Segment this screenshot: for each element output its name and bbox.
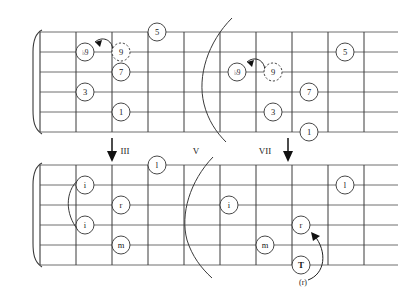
- dot-5-right-upper: 5: [336, 43, 354, 61]
- dot-m-left-lower: m: [112, 236, 130, 254]
- fretboard-figure: ♭9 9 5 7 3 1: [0, 0, 400, 303]
- dot-label: 1: [119, 107, 123, 117]
- dot-label: r: [300, 220, 303, 230]
- dot-label: r: [120, 200, 123, 210]
- dot-flat9-right-upper: ♭9: [228, 63, 246, 81]
- dot-thumb-right-lower: T: [292, 256, 310, 274]
- dot-label: T: [298, 260, 304, 270]
- reach-arc-lower: [185, 157, 213, 278]
- fret-marker-label: VII: [259, 146, 272, 156]
- dot-label: 3: [83, 87, 87, 97]
- dot-7-left-upper: 7: [112, 63, 130, 81]
- upper-board: ♭9 9 5 7 3 1: [33, 18, 398, 142]
- dot-i-upper-left-lower: i: [76, 176, 94, 194]
- dot-label: 5: [343, 47, 347, 57]
- dot-m-right-lower: m: [256, 236, 274, 254]
- dot-label: 9: [119, 47, 123, 57]
- dot-l-right-lower: l: [336, 176, 354, 194]
- slur-left-upper: [95, 39, 113, 50]
- nut-brace-upper: [33, 30, 42, 134]
- fret-marker-label: V: [193, 146, 200, 156]
- dot-1-right-upper: 1: [300, 123, 318, 141]
- dot-label: 3: [271, 107, 275, 117]
- dot-1-left-upper: 1: [112, 103, 130, 121]
- fret-marker-VII: VII: [259, 146, 272, 156]
- thumb-to-r-arrow: [308, 232, 323, 280]
- fret-marker-III: III: [107, 138, 130, 162]
- dot-9-right-upper: 9: [264, 63, 282, 81]
- dot-label: 1: [307, 127, 311, 137]
- dot-i-right-lower: i: [220, 196, 238, 214]
- dot-label: 7: [119, 67, 123, 77]
- dot-label: ♭9: [82, 48, 89, 57]
- nut-brace-lower: [33, 163, 42, 267]
- figure-canvas: ♭9 9 5 7 3 1: [0, 0, 400, 303]
- dot-7-right-upper: 7: [300, 83, 318, 101]
- dot-5-left-upper: 5: [148, 23, 166, 41]
- dot-label: 5: [155, 27, 159, 37]
- dot-r-left-lower: r: [112, 196, 130, 214]
- fret-marker-VII-arrow: [283, 138, 293, 162]
- fret-marker-row: III V VII: [107, 138, 293, 162]
- dot-label: 7: [307, 87, 311, 97]
- fret-marker-label: III: [121, 146, 130, 156]
- dot-flat9-left-upper: ♭9: [76, 43, 94, 61]
- dot-label: m: [118, 240, 125, 250]
- dot-label: m: [262, 240, 269, 250]
- dot-r-right-lower: r: [292, 216, 310, 234]
- dot-9-left-upper: 9: [112, 43, 130, 61]
- dot-3-right-upper: 3: [264, 103, 282, 121]
- dot-label: ♭9: [234, 68, 241, 77]
- lower-board: l i r i m l: [33, 156, 398, 287]
- fret-marker-V: V: [193, 146, 200, 156]
- dot-l-left-lower: l: [148, 156, 166, 174]
- thumb-note-label: (r): [299, 278, 307, 287]
- reach-arc-upper: [202, 18, 232, 142]
- dot-label: 9: [271, 67, 275, 77]
- dot-3-left-upper: 3: [76, 83, 94, 101]
- dot-i-lower-left-lower: i: [76, 216, 94, 234]
